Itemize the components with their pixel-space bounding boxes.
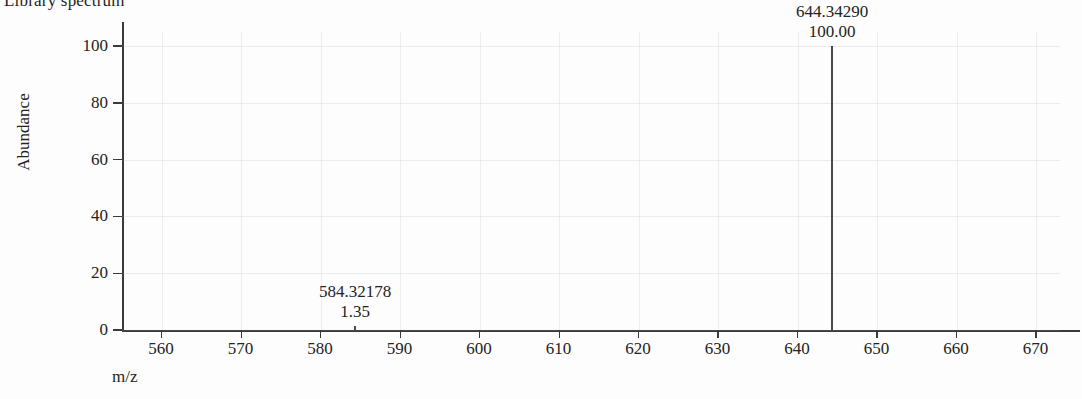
x-gridline bbox=[639, 32, 640, 330]
peak-annotation: 644.34290100.00 bbox=[796, 2, 868, 42]
y-tick-label: 0 bbox=[100, 320, 109, 340]
y-gridline bbox=[122, 273, 1060, 274]
y-gridline bbox=[122, 330, 1060, 331]
y-axis-tick: 100 bbox=[113, 45, 122, 46]
x-axis-tick: 620 bbox=[638, 330, 639, 338]
y-axis-tick: 80 bbox=[113, 102, 122, 103]
x-axis-tick: 610 bbox=[559, 330, 560, 338]
scan-texture bbox=[122, 32, 1060, 330]
x-tick-label: 570 bbox=[228, 339, 254, 359]
plot-area: 0204060801005605705805906006106206306406… bbox=[122, 32, 1060, 330]
x-gridline bbox=[718, 32, 719, 330]
x-gridline bbox=[559, 32, 560, 330]
x-axis-tick: 640 bbox=[797, 330, 798, 338]
x-tick-label: 560 bbox=[148, 339, 174, 359]
peak-intensity-label: 100.00 bbox=[796, 22, 868, 42]
x-tick-label: 620 bbox=[625, 339, 651, 359]
y-axis-title: Abundance bbox=[14, 72, 34, 192]
spectrum-peak bbox=[831, 46, 833, 330]
y-tick-label: 80 bbox=[91, 93, 108, 113]
x-axis-tick: 570 bbox=[241, 330, 242, 338]
y-axis-tick: 0 bbox=[113, 329, 122, 330]
peak-annotation: 584.321781.35 bbox=[319, 282, 391, 322]
mass-spectrum-figure: Library spectrum Abundance m/z 020406080… bbox=[0, 0, 1082, 399]
x-axis-tick: 600 bbox=[479, 330, 480, 338]
y-gridline bbox=[122, 46, 1060, 47]
y-tick-label: 40 bbox=[91, 206, 108, 226]
x-tick-label: 600 bbox=[466, 339, 492, 359]
y-axis-tick: 40 bbox=[113, 216, 122, 217]
x-gridline bbox=[400, 32, 401, 330]
x-gridline bbox=[241, 32, 242, 330]
x-axis-tick: 580 bbox=[320, 330, 321, 338]
y-axis-tick: 20 bbox=[113, 273, 122, 274]
peak-mz-label: 584.32178 bbox=[319, 282, 391, 302]
x-tick-label: 650 bbox=[864, 339, 890, 359]
y-gridline bbox=[122, 103, 1060, 104]
x-gridline bbox=[798, 32, 799, 330]
y-tick-label: 20 bbox=[91, 263, 108, 283]
x-tick-label: 660 bbox=[943, 339, 969, 359]
x-axis-tick: 630 bbox=[717, 330, 718, 338]
x-tick-label: 670 bbox=[1023, 339, 1049, 359]
x-tick-label: 630 bbox=[705, 339, 731, 359]
peak-mz-label: 644.34290 bbox=[796, 2, 868, 22]
x-tick-label: 580 bbox=[307, 339, 333, 359]
y-tick-label: 60 bbox=[91, 149, 108, 169]
x-gridline bbox=[162, 32, 163, 330]
y-tick-label: 100 bbox=[83, 36, 109, 56]
y-axis-tick: 60 bbox=[113, 159, 122, 160]
peak-intensity-label: 1.35 bbox=[319, 302, 391, 322]
x-tick-label: 590 bbox=[387, 339, 413, 359]
x-axis-tick: 560 bbox=[161, 330, 162, 338]
x-gridline bbox=[480, 32, 481, 330]
spectrum-peak bbox=[354, 326, 356, 330]
x-gridline bbox=[877, 32, 878, 330]
y-gridline bbox=[122, 216, 1060, 217]
x-axis-tick: 650 bbox=[876, 330, 877, 338]
x-tick-label: 640 bbox=[784, 339, 810, 359]
x-axis-tick: 670 bbox=[1035, 330, 1036, 338]
x-gridline bbox=[1036, 32, 1037, 330]
page-title: Library spectrum bbox=[4, 0, 125, 11]
x-axis-title: m/z bbox=[112, 367, 138, 387]
y-gridline bbox=[122, 160, 1060, 161]
x-tick-label: 610 bbox=[546, 339, 572, 359]
x-gridline bbox=[957, 32, 958, 330]
x-axis-tick: 590 bbox=[400, 330, 401, 338]
x-axis-tick: 660 bbox=[956, 330, 957, 338]
